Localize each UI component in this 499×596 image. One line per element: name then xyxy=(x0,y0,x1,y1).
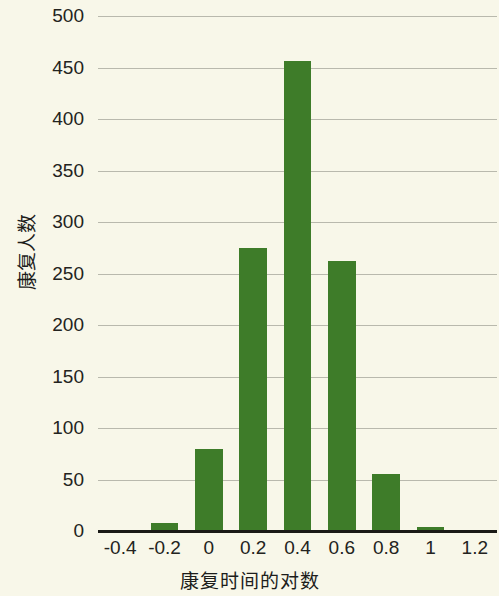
x-axis-line xyxy=(98,530,497,533)
plot-area xyxy=(98,16,497,531)
y-axis-tick-label: 400 xyxy=(52,108,84,130)
y-axis-tick-label: 0 xyxy=(73,520,84,542)
bar-series xyxy=(98,16,497,531)
x-axis-tick-label: 0.6 xyxy=(329,537,355,559)
y-axis-tick-label: 50 xyxy=(63,469,84,491)
x-axis-tick-label: 0.8 xyxy=(373,537,399,559)
bar xyxy=(284,61,311,531)
x-axis-title: 康复时间的对数 xyxy=(0,566,499,593)
x-axis-tick-label: 1 xyxy=(425,537,436,559)
y-axis-tick-label: 350 xyxy=(52,160,84,182)
y-axis-tick-label: 100 xyxy=(52,417,84,439)
x-axis-tick-label: -0.2 xyxy=(148,537,181,559)
x-axis-tick-label: 0.4 xyxy=(284,537,310,559)
x-axis-tick-label: 0 xyxy=(204,537,215,559)
y-axis-tick-label: 150 xyxy=(52,366,84,388)
histogram-chart: 康复人数 050100150200250300350400450500 -0.4… xyxy=(0,0,499,596)
y-axis-tick-label: 300 xyxy=(52,211,84,233)
y-axis-tick-label: 250 xyxy=(52,263,84,285)
bar xyxy=(239,248,266,531)
x-axis-tick-label: 0.2 xyxy=(240,537,266,559)
x-axis-tick-label: -0.4 xyxy=(104,537,137,559)
bar xyxy=(372,474,399,531)
x-axis-tick-label: 1.2 xyxy=(462,537,488,559)
x-axis-tick-labels: -0.4-0.200.20.40.60.811.2 xyxy=(98,537,497,565)
y-axis-tick-labels: 050100150200250300350400450500 xyxy=(0,0,92,596)
y-axis-tick-label: 500 xyxy=(52,5,84,27)
y-axis-tick-label: 450 xyxy=(52,57,84,79)
bar xyxy=(195,449,222,531)
bar xyxy=(328,261,355,531)
y-axis-tick-label: 200 xyxy=(52,314,84,336)
